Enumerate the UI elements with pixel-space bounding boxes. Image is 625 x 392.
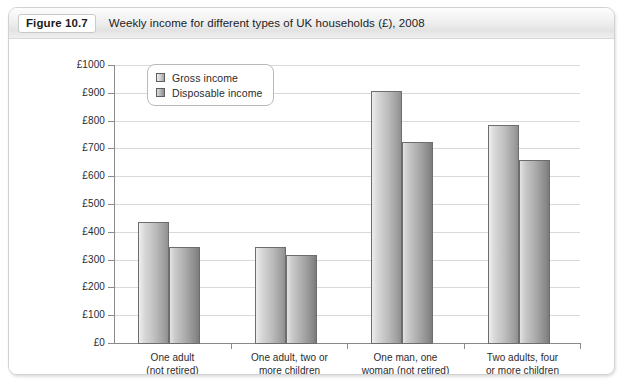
- x-axis-category-label-line: (not retired): [114, 364, 231, 375]
- x-axis-category-label: One adult(not retired): [114, 351, 231, 375]
- x-axis-category-label-line: woman (not retired): [347, 364, 464, 375]
- x-axis-category-label: Two adults, fouror more children: [464, 351, 581, 375]
- x-axis-category-label: One adult, two ormore children: [231, 351, 348, 375]
- legend-label-disposable: Disposable income: [172, 87, 262, 99]
- figure-number-badge: Figure 10.7: [18, 14, 96, 33]
- x-axis-category-label-line: One man, one: [347, 351, 464, 364]
- legend-item-disposable-income: Disposable income: [156, 85, 262, 100]
- x-axis-category-label-line: more children: [231, 364, 348, 375]
- legend-item-gross-income: Gross income: [156, 70, 262, 85]
- figure-card: Figure 10.7 Weekly income for different …: [8, 7, 615, 375]
- chart-legend: Gross income Disposable income: [147, 64, 274, 106]
- x-axis-category-label: One man, onewoman (not retired): [347, 351, 464, 375]
- chart-plot-area: £1000£900£800£700£600£500£400£300£200£10…: [9, 39, 614, 375]
- figure-caption-text: Weekly income for different types of UK …: [109, 17, 425, 29]
- legend-swatch-gross-icon: [156, 73, 165, 82]
- x-axis-category-label-line: One adult: [114, 351, 231, 364]
- legend-label-gross: Gross income: [172, 72, 238, 84]
- x-axis-category-label-line: Two adults, four: [464, 351, 581, 364]
- x-axis-category-label-line: or more children: [464, 364, 581, 375]
- x-axis-category-labels: One adult(not retired)One adult, two orm…: [9, 39, 614, 375]
- legend-swatch-disposable-icon: [156, 88, 165, 97]
- figure-caption-bar: Figure 10.7 Weekly income for different …: [9, 8, 614, 39]
- x-axis-category-label-line: One adult, two or: [231, 351, 348, 364]
